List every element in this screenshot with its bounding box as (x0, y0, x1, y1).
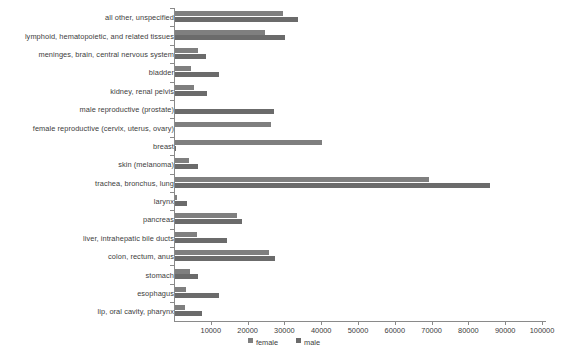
legend-item-male[interactable]: male (296, 337, 320, 346)
bar-male (174, 183, 490, 188)
bar-male (174, 91, 207, 96)
legend-item-female[interactable]: female (248, 337, 278, 346)
chart-row: kidney, renal pelvis (0, 82, 568, 100)
x-axis-tick-label: 90000 (495, 326, 516, 335)
chart-row: lymphoid, hematopoietic, and related tis… (0, 26, 568, 44)
x-axis-tick (395, 322, 396, 325)
category-label: bladder (149, 68, 174, 77)
bar-female (174, 66, 191, 71)
bar-male (174, 256, 275, 261)
chart-row: liver, intrahepatic bile ducts (0, 229, 568, 247)
bar-male (174, 238, 227, 243)
x-axis-tick (505, 322, 506, 325)
category-label: male reproductive (prostate) (80, 105, 175, 114)
category-label: meninges, brain, central nervous system (38, 49, 174, 58)
category-label: female reproductive (cervix, uterus, ova… (33, 123, 174, 132)
category-label: trachea, bronchus, lung (95, 178, 174, 187)
bar-male (174, 35, 285, 40)
category-label: breast (153, 141, 174, 150)
category-rows: all other, unspecifiedlymphoid, hematopo… (0, 8, 568, 321)
bar-female (174, 177, 429, 182)
x-axis-tick-label: 70000 (421, 326, 442, 335)
bar-female (174, 140, 322, 145)
x-axis-tick (432, 322, 433, 325)
chart-row: female reproductive (cervix, uterus, ova… (0, 118, 568, 136)
chart-row: pancreas (0, 210, 568, 228)
category-label: lymphoid, hematopoietic, and related tis… (25, 31, 174, 40)
legend-swatch-icon (248, 338, 253, 343)
x-axis-tick (468, 322, 469, 325)
x-axis-tick-label: 40000 (311, 326, 332, 335)
chart-row: trachea, bronchus, lung (0, 174, 568, 192)
x-axis-tick (248, 322, 249, 325)
chart-row: breast (0, 137, 568, 155)
bar-female (174, 232, 197, 237)
category-label: colon, rectum, anus (108, 252, 174, 261)
category-label: all other, unspecified (105, 13, 174, 22)
chart-legend: femalemale (0, 337, 568, 346)
category-label: stomach (146, 270, 174, 279)
x-axis-tick-label: 30000 (274, 326, 295, 335)
x-axis-ticks: 1000020000300004000050000600007000080000… (0, 322, 568, 336)
bar-female (174, 287, 186, 292)
category-label: liver, intrahepatic bile ducts (83, 233, 174, 242)
bar-male (174, 17, 298, 22)
legend-swatch-icon (296, 338, 301, 343)
x-axis-tick-label: 20000 (237, 326, 258, 335)
category-label: larynx (154, 197, 174, 206)
category-label: skin (melanoma) (118, 160, 174, 169)
category-label: kidney, renal pelvis (110, 86, 174, 95)
bar-male (174, 274, 198, 279)
x-axis-tick (284, 322, 285, 325)
bar-female (174, 213, 237, 218)
category-label: esophagus (137, 289, 174, 298)
chart-row: meninges, brain, central nervous system (0, 45, 568, 63)
category-label: pancreas (143, 215, 174, 224)
bar-male (174, 72, 219, 77)
bar-male (174, 109, 274, 114)
x-axis-tick-label: 80000 (458, 326, 479, 335)
x-axis-tick-label: 10000 (201, 326, 222, 335)
bar-male (174, 164, 198, 169)
bar-female (174, 158, 189, 163)
bar-female (174, 30, 265, 35)
x-axis-tick (542, 322, 543, 325)
x-axis-tick-label: 100000 (530, 326, 555, 335)
bar-male (174, 219, 242, 224)
bar-female (174, 250, 269, 255)
bar-female (174, 305, 185, 310)
legend-label: female (256, 337, 278, 346)
chart-row: colon, rectum, anus (0, 247, 568, 265)
x-axis-tick (358, 322, 359, 325)
y-axis-line (174, 8, 175, 321)
chart-row: esophagus (0, 284, 568, 302)
x-axis-tick-label: 60000 (385, 326, 406, 335)
bar-male (174, 201, 187, 206)
legend-label: male (304, 337, 320, 346)
bar-male (174, 54, 206, 59)
chart-row: stomach (0, 265, 568, 283)
chart-row: all other, unspecified (0, 8, 568, 26)
bar-male (174, 293, 219, 298)
bar-female (174, 122, 271, 127)
chart-row: bladder (0, 63, 568, 81)
bar-male (174, 311, 202, 316)
chart-row: male reproductive (prostate) (0, 100, 568, 118)
bar-female (174, 269, 190, 274)
category-label: lip, oral cavity, pharynx (98, 307, 174, 316)
bar-female (174, 85, 194, 90)
bar-female (174, 11, 283, 16)
x-axis-tick-label: 50000 (348, 326, 369, 335)
chart-row: lip, oral cavity, pharynx (0, 302, 568, 320)
chart-row: larynx (0, 192, 568, 210)
x-axis-tick (211, 322, 212, 325)
x-axis-tick (321, 322, 322, 325)
bar-female (174, 48, 198, 53)
chart-row: skin (melanoma) (0, 155, 568, 173)
